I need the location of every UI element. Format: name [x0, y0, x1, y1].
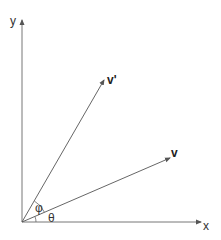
angle-theta-label: θ — [48, 211, 55, 225]
angle-arc-theta — [35, 216, 36, 222]
x-axis-label: x — [203, 219, 209, 233]
vector-rotation-diagram: y x v' v φ θ — [0, 0, 221, 240]
vector-v-prime-label: v' — [107, 73, 117, 87]
angle-phi-label: φ — [35, 201, 43, 215]
y-axis-label: y — [10, 14, 16, 28]
vector-v-label: v — [171, 146, 178, 160]
